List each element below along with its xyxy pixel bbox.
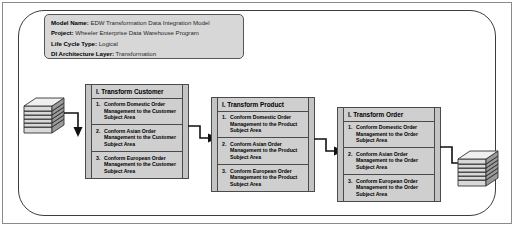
- process-step-list: 1. Conform Domestic Order Management to …: [344, 122, 434, 202]
- diagram-canvas: Model Name: EDW Transformation Data Inte…: [0, 0, 516, 228]
- process-step-text: Conform European Order Management to the…: [104, 155, 179, 176]
- model-info-value: Transformation: [116, 50, 156, 57]
- process-step-number: 3.: [222, 168, 230, 189]
- model-info-key: Project:: [51, 29, 74, 36]
- target-data-store-icon: [456, 142, 502, 194]
- process-box-title: I. Transform Customer: [92, 85, 182, 99]
- process-step[interactable]: 2. Conform Asian Order Management to the…: [218, 138, 308, 165]
- model-info-key: Model Name:: [51, 19, 89, 26]
- process-step-text: Conform Domestic Order Management to the…: [104, 101, 179, 122]
- model-info-value: Logical: [99, 40, 118, 47]
- process-step[interactable]: 2. Conform Asian Order Management to the…: [92, 125, 182, 152]
- model-info-key: Life Cycle Type:: [51, 40, 97, 47]
- process-step-text: Conform Asian Order Management to the Cu…: [104, 128, 179, 149]
- process-step-number: 3.: [96, 155, 104, 176]
- process-step[interactable]: 1. Conform Domestic Order Management to …: [92, 99, 182, 126]
- process-step[interactable]: 3. Conform European Order Management to …: [344, 175, 434, 201]
- process-step-text: Conform Asian Order Management to the Pr…: [230, 141, 305, 162]
- process-box-title: I. Transform Product: [218, 98, 308, 112]
- process-step[interactable]: 2. Conform Asian Order Management to the…: [344, 148, 434, 175]
- process-step-number: 2.: [222, 141, 230, 162]
- model-info-line-model-name: Model Name: EDW Transformation Data Inte…: [51, 18, 237, 28]
- process-step[interactable]: 3. Conform European Order Management to …: [92, 152, 182, 178]
- process-box-transform-product[interactable]: I. Transform Product 1. Conform Domestic…: [211, 97, 315, 192]
- process-step-text: Conform Domestic Order Management to the…: [230, 114, 305, 135]
- process-step-number: 2.: [348, 151, 356, 172]
- process-step[interactable]: 3. Conform European Order Management to …: [218, 165, 308, 191]
- process-step[interactable]: 1. Conform Domestic Order Management to …: [218, 112, 308, 139]
- process-step-number: 3.: [348, 178, 356, 199]
- process-step-text: Conform European Order Management to the…: [230, 168, 305, 189]
- model-info-box: Model Name: EDW Transformation Data Inte…: [44, 14, 244, 59]
- process-box-transform-customer[interactable]: I. Transform Customer 1. Conform Domesti…: [85, 84, 189, 179]
- model-info-value: Wheeler Enterprise Data Warehouse Progra…: [75, 29, 199, 36]
- process-step-text: Conform Domestic Order Management to the…: [356, 124, 431, 145]
- process-step-number: 1.: [222, 114, 230, 135]
- model-info-key: DI Architecture Layer:: [51, 50, 114, 57]
- process-step-number: 2.: [96, 128, 104, 149]
- process-step-number: 1.: [348, 124, 356, 145]
- process-step-number: 1.: [96, 101, 104, 122]
- model-info-line-project: Project: Wheeler Enterprise Data Warehou…: [51, 28, 237, 38]
- process-step-text: Conform European Order Management to the…: [356, 178, 431, 199]
- process-step[interactable]: 1. Conform Domestic Order Management to …: [344, 122, 434, 149]
- model-info-line-life-cycle-type: Life Cycle Type: Logical: [51, 39, 237, 49]
- process-box-title: I. Transform Order: [344, 108, 434, 122]
- process-step-list: 1. Conform Domestic Order Management to …: [92, 99, 182, 179]
- model-info-line-di-architecture-layer: DI Architecture Layer: Transformation: [51, 49, 237, 59]
- process-step-list: 1. Conform Domestic Order Management to …: [218, 112, 308, 192]
- process-box-transform-order[interactable]: I. Transform Order 1. Conform Domestic O…: [337, 107, 441, 202]
- process-step-text: Conform Asian Order Management to the Or…: [356, 151, 431, 172]
- model-info-value: EDW Transformation Data Integration Mode…: [90, 19, 209, 26]
